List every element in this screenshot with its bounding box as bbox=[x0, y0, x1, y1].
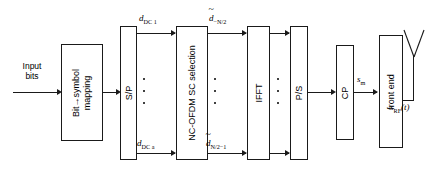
input-bits-label-line2: bits bbox=[25, 71, 38, 81]
block-ps: P/S bbox=[290, 26, 308, 160]
signal-label-s-m: sm bbox=[357, 74, 365, 86]
signal-label-d-tilde-n2-minus-1: dN/2−1 bbox=[206, 138, 226, 150]
s-rf-argument: (t) bbox=[401, 102, 410, 112]
block-ifft: IFFT bbox=[247, 26, 270, 160]
d-tilde-n2m1-subscript: N/2−1 bbox=[211, 143, 227, 150]
dipole-antenna-icon bbox=[401, 28, 427, 60]
signal-label-d-dc-1: dDC 1 bbox=[139, 13, 157, 25]
block-cp: CP bbox=[336, 45, 354, 140]
block-ifft-label: IFFT bbox=[253, 84, 263, 103]
block-nc-ofdm-sc-selection-label: NC-OFDM SC selection bbox=[187, 45, 197, 141]
wire-sp-to-ncofdm-top bbox=[137, 33, 175, 34]
d-tilde-n2m1-symbol: d bbox=[206, 138, 211, 148]
input-bits-label-line1: Input bbox=[23, 61, 42, 71]
block-ps-label: P/S bbox=[294, 86, 304, 101]
block-bit-symbol-mapping: Bit→symbol mapping bbox=[61, 44, 103, 141]
wire-ncofdm-to-ifft-bottom bbox=[208, 153, 246, 154]
signal-label-s-rf-t: sRF(t) bbox=[390, 102, 410, 114]
input-bits-label: Input bits bbox=[8, 62, 56, 82]
signal-label-d-tilde-neg-n2: d−N/2 bbox=[209, 13, 226, 25]
d-tilde-neg-n2-symbol: d bbox=[209, 13, 214, 23]
block-bit-symbol-mapping-label: Bit→symbol mapping bbox=[71, 68, 92, 116]
vertical-ellipsis-ncofdm-ifft bbox=[213, 78, 217, 104]
block-sp-label: S/P bbox=[123, 86, 133, 101]
wire-sp-to-ncofdm-bottom bbox=[137, 153, 175, 154]
block-nc-ofdm-sc-selection: NC-OFDM SC selection bbox=[176, 26, 208, 160]
s-m-subscript: m bbox=[361, 79, 366, 86]
vertical-ellipsis-sp-ncofdm bbox=[142, 78, 146, 104]
wire-input-to-mapping bbox=[13, 92, 60, 93]
wire-ncofdm-to-ifft-top bbox=[208, 33, 246, 34]
mapping-label-line2: mapping bbox=[82, 75, 92, 110]
block-front-end: front end bbox=[379, 35, 403, 148]
wire-antenna-stem bbox=[413, 56, 414, 101]
d-dc-a-subscript: DC a bbox=[142, 143, 155, 150]
block-sp: S/P bbox=[120, 26, 137, 160]
block-cp-label: CP bbox=[340, 86, 350, 99]
vertical-ellipsis-ifft-ps bbox=[276, 78, 280, 104]
mapping-label-line1: Bit→symbol bbox=[71, 68, 81, 116]
nc-ofdm-transmitter-diagram: Input bits Bit→symbol mapping S/P dDC 1 … bbox=[0, 0, 433, 184]
d-tilde-neg-n2-subscript: −N/2 bbox=[214, 18, 227, 25]
arrowhead-cp-to-frontend bbox=[373, 89, 378, 95]
d-dc-1-subscript: DC 1 bbox=[144, 18, 157, 25]
signal-label-d-dc-a: dDC a bbox=[137, 138, 154, 150]
s-rf-subscript: RF bbox=[394, 107, 402, 114]
